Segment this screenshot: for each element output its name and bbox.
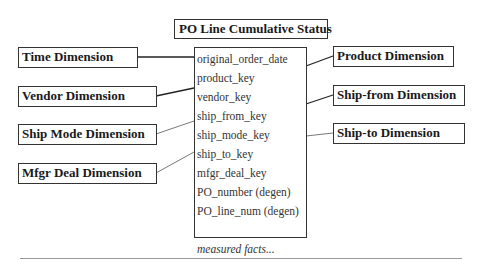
mfgr-deal-dimension: Mfgr Deal Dimension bbox=[18, 163, 157, 184]
measured-facts: measured facts... bbox=[197, 240, 306, 259]
fact-field: vendor_key bbox=[197, 88, 306, 107]
ship-to-dimension: Ship-to Dimension bbox=[333, 123, 465, 144]
fact-field: product_key bbox=[197, 69, 306, 88]
fact-field: mfgr_deal_key bbox=[197, 164, 306, 183]
fact-field: ship_from_key bbox=[197, 107, 306, 126]
fact-table-title: PO Line Cumulative Status bbox=[174, 19, 328, 39]
vendor-dimension: Vendor Dimension bbox=[18, 86, 157, 107]
ship-from-dimension: Ship-from Dimension bbox=[333, 85, 465, 106]
fact-table: original_order_date product_key vendor_k… bbox=[194, 47, 307, 238]
time-dimension: Time Dimension bbox=[18, 47, 138, 68]
fact-field: PO_number (degen) bbox=[197, 183, 306, 202]
fact-field: PO_line_num (degen) bbox=[197, 202, 306, 221]
product-dimension: Product Dimension bbox=[333, 46, 454, 67]
ship-mode-dimension: Ship Mode Dimension bbox=[18, 124, 157, 145]
fact-field: ship_to_key bbox=[197, 145, 306, 164]
fact-field: ship_mode_key bbox=[197, 126, 306, 145]
bottom-rule bbox=[20, 258, 462, 259]
fact-field: original_order_date bbox=[197, 50, 306, 69]
